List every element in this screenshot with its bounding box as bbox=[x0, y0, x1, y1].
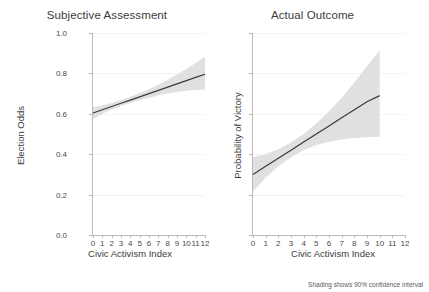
trend-line-left bbox=[93, 74, 205, 113]
x-tick-label: 5 bbox=[314, 239, 318, 248]
y-tick-label: 0.8 bbox=[56, 69, 67, 78]
x-tick-label: 11 bbox=[192, 239, 200, 248]
x-tick-mark bbox=[205, 235, 206, 238]
y-tick-label: 1.0 bbox=[56, 29, 67, 38]
x-tick-label: 6 bbox=[327, 239, 331, 248]
y-tick-label: 0.2 bbox=[56, 190, 67, 199]
y-tick-labels-right: 0.00.20.40.60.81.0 bbox=[215, 0, 248, 292]
x-tick-label: 0 bbox=[91, 239, 95, 248]
x-tick-label: 6 bbox=[147, 239, 151, 248]
y-tick-label: 0.4 bbox=[56, 150, 67, 159]
x-tick-label: 8 bbox=[165, 239, 169, 248]
x-tick-label: 10 bbox=[375, 239, 384, 248]
x-tick-label: 7 bbox=[156, 239, 160, 248]
x-tick-label: 11 bbox=[388, 239, 396, 248]
x-tick-label: 10 bbox=[182, 239, 191, 248]
x-tick-label: 12 bbox=[201, 239, 210, 248]
panel-title-right: Actual Outcome bbox=[225, 9, 400, 21]
x-axis-title-right: Civic Activism Index bbox=[263, 248, 403, 259]
panel-actual-outcome: Actual Outcome Probability of Victory Ci… bbox=[215, 0, 429, 292]
panel-subjective-assessment: Subjective Assessment Election Odds Civi… bbox=[0, 0, 215, 292]
x-tick-label: 5 bbox=[137, 239, 141, 248]
x-tick-label: 4 bbox=[128, 239, 132, 248]
x-tick-label: 8 bbox=[352, 239, 356, 248]
confidence-band-right bbox=[253, 50, 380, 191]
confidence-band-left bbox=[93, 56, 205, 118]
x-tick-label: 4 bbox=[301, 239, 305, 248]
x-tick-label: 12 bbox=[401, 239, 410, 248]
x-tick-label: 9 bbox=[365, 239, 369, 248]
x-tick-label: 1 bbox=[263, 239, 267, 248]
plot-svg-right bbox=[253, 33, 405, 235]
y-tick-label: 0.6 bbox=[56, 109, 67, 118]
figure-container: Subjective Assessment Election Odds Civi… bbox=[0, 0, 429, 292]
x-axis-line-left bbox=[92, 235, 205, 236]
y-tick-labels-left: No ChanceLittleSome ChanceAverageGood Ch… bbox=[0, 0, 88, 292]
y-tick-label: 0.0 bbox=[56, 231, 67, 240]
plot-svg-left bbox=[93, 33, 205, 235]
x-tick-label: 3 bbox=[289, 239, 293, 248]
x-tick-label: 0 bbox=[251, 239, 255, 248]
plot-area-left bbox=[93, 33, 205, 235]
x-tick-label: 3 bbox=[119, 239, 123, 248]
x-tick-label: 7 bbox=[339, 239, 343, 248]
x-tick-mark bbox=[405, 235, 406, 238]
plot-area-right bbox=[253, 33, 405, 235]
x-tick-label: 2 bbox=[109, 239, 113, 248]
x-tick-label: 1 bbox=[100, 239, 104, 248]
x-tick-label: 2 bbox=[276, 239, 280, 248]
x-axis-line-right bbox=[252, 235, 405, 236]
x-tick-label: 9 bbox=[175, 239, 179, 248]
footnote-confidence-interval: Shading shows 90% confidence interval bbox=[308, 281, 423, 288]
